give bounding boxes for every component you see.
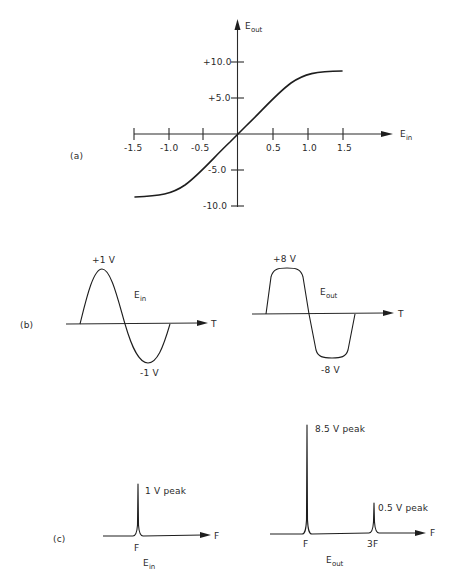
- frequency-axis-arrow-icon: [200, 532, 211, 538]
- negative-peak-label: -8 V: [321, 365, 340, 375]
- x-axis-label: Ein: [400, 129, 412, 142]
- amplifier-distortion-figure: (a) Eout Ein -1.5 -1.0 -0.5 0.5 1.0 1.5: [0, 0, 451, 588]
- frequency-axis-label: F: [214, 531, 219, 541]
- y-axis-label: Eout: [245, 21, 263, 34]
- y-tick-label: +5.0: [208, 93, 231, 103]
- peak-frequency-label: F: [303, 539, 308, 549]
- input-waveform: T +1 V -1 V Ein: [66, 255, 217, 378]
- time-axis-label: T: [210, 319, 217, 329]
- x-tick-label: 1.5: [337, 143, 352, 153]
- negative-peak-label: -1 V: [140, 368, 159, 378]
- time-axis-label: T: [397, 309, 404, 319]
- output-spectrum: F 8.5 V peak 0.5 V peak F 3F Eout: [270, 424, 435, 568]
- time-axis-arrow-icon: [383, 310, 394, 316]
- x-tick-label: -0.5: [191, 143, 209, 153]
- positive-peak-label: +1 V: [92, 255, 116, 265]
- panel-c-spectra: (c) F 1 V peak F Ein F 8.5 V peak 0.5 V …: [53, 424, 435, 571]
- output-waveform: T +8 V -8 V Eout: [252, 254, 404, 375]
- input-spectrum: F 1 V peak F Ein: [103, 484, 219, 571]
- frequency-axis-label: F: [430, 528, 435, 538]
- panel-b-waveforms: (b) T +1 V -1 V Ein T +8 V -8 V Eout: [20, 254, 404, 378]
- output-signal-label: Eout: [320, 287, 338, 300]
- frequency-axis-arrow-icon: [415, 530, 426, 536]
- panel-b-label: (b): [20, 320, 33, 330]
- peak-frequency-label: F: [134, 543, 139, 553]
- y-axis-arrow-icon: [235, 19, 241, 30]
- x-tick-label: 0.5: [266, 143, 281, 153]
- y-tick-label: -10.0: [203, 201, 227, 211]
- input-signal-label: Ein: [134, 290, 146, 303]
- positive-peak-label: +8 V: [273, 254, 297, 264]
- time-axis-arrow-icon: [197, 320, 208, 326]
- panel-a-label: (a): [70, 151, 83, 161]
- frequency-axis: [270, 425, 418, 534]
- y-tick-label: -5.0: [208, 165, 226, 175]
- x-axis-arrow-icon: [381, 131, 393, 137]
- x-tick-label: 1.0: [302, 143, 317, 153]
- y-tick-label: +10.0: [203, 57, 232, 67]
- panel-c-label: (c): [53, 534, 66, 544]
- sine-wave: [80, 269, 170, 363]
- peak-amplitude-label: 1 V peak: [145, 486, 187, 496]
- time-axis: [66, 323, 200, 324]
- output-spectrum-label: Eout: [326, 555, 344, 568]
- peak-amplitude-label: 8.5 V peak: [315, 424, 366, 434]
- x-tick-label: -1.5: [124, 143, 142, 153]
- peak-amplitude-label: 0.5 V peak: [378, 503, 429, 513]
- input-spectrum-label: Ein: [143, 558, 155, 571]
- time-axis: [252, 313, 386, 314]
- panel-a-transfer-curve: (a) Eout Ein -1.5 -1.0 -0.5 0.5 1.0 1.5: [70, 19, 412, 211]
- peak-frequency-label: 3F: [367, 539, 378, 549]
- x-tick-label: -1.0: [160, 143, 178, 153]
